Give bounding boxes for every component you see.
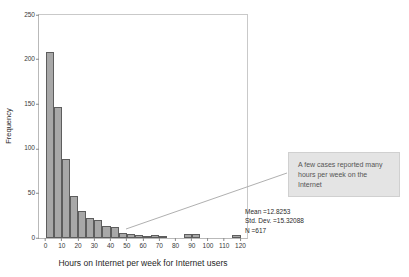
y-tick-label: 100 <box>24 146 39 153</box>
x-tick-label: 0 <box>44 238 48 250</box>
histogram-bar <box>86 218 94 238</box>
x-tick-label: 120 <box>235 238 246 250</box>
x-tick-label: 110 <box>219 238 229 250</box>
x-tick-label: 60 <box>139 238 146 250</box>
y-tick-label: 200 <box>24 56 39 63</box>
histogram-bar <box>46 52 54 238</box>
x-tick-label: 40 <box>107 238 114 250</box>
stat-mean: Mean =12.8253 <box>245 207 304 216</box>
histogram-bar <box>54 107 62 238</box>
x-tick-label: 20 <box>74 238 81 250</box>
x-tick-label: 10 <box>58 238 65 250</box>
histogram-bar <box>70 196 78 238</box>
x-tick-label: 30 <box>91 238 98 250</box>
histogram-bar <box>94 220 102 238</box>
x-tick-label: 100 <box>203 238 214 250</box>
annotation-text: A few cases reported many hours per week… <box>298 161 382 188</box>
histogram-bar <box>62 159 70 238</box>
histogram-bar <box>102 226 110 238</box>
x-tick-label: 80 <box>172 238 179 250</box>
figure-title <box>0 0 409 1</box>
x-axis-label: Hours on Internet per week for Internet … <box>58 258 227 268</box>
y-axis-label: Frequency <box>4 108 13 143</box>
stat-stddev: Std. Dev. =15.32088 <box>245 216 304 225</box>
histogram-figure: Frequency 050100150200250 01020304050607… <box>0 0 409 277</box>
x-tick-label: 70 <box>156 238 163 250</box>
stat-n: N =617 <box>245 226 304 235</box>
histogram-bar <box>111 227 119 238</box>
histogram-bar <box>78 211 86 238</box>
y-tick-label: 0 <box>31 235 39 242</box>
x-tick-label: 90 <box>188 238 195 250</box>
y-tick-label: 150 <box>24 101 39 108</box>
y-tick-label: 50 <box>28 190 39 197</box>
y-tick-label: 250 <box>24 12 39 19</box>
statistics-block: Mean =12.8253 Std. Dev. =15.32088 N =617 <box>245 207 304 235</box>
plot-area: 050100150200250 010203040506070809010011… <box>38 14 248 239</box>
annotation-callout: A few cases reported many hours per week… <box>288 152 400 197</box>
histogram-bars <box>39 15 247 238</box>
x-tick-label: 50 <box>123 238 130 250</box>
